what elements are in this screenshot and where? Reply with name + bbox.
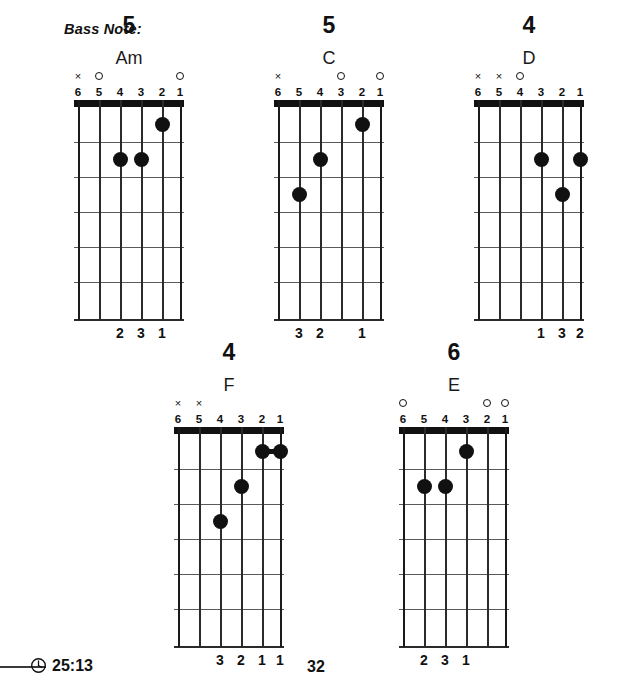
string-line	[478, 100, 480, 320]
open-string-icon-c-1	[374, 70, 386, 80]
string-line	[403, 427, 405, 647]
finger-number-label: 3	[133, 324, 149, 342]
fret-line	[274, 177, 384, 178]
string-line	[262, 427, 264, 647]
string-line	[178, 427, 180, 647]
finger-number-label: 1	[154, 324, 170, 342]
chord-diagram-am: 5Am654321231	[59, 14, 199, 344]
string-line	[278, 100, 280, 320]
string-markers-am	[74, 70, 184, 84]
string-number-label: 3	[234, 412, 248, 426]
string-number-label: 4	[513, 85, 527, 99]
string-number-label: 4	[213, 412, 227, 426]
string-line	[162, 100, 164, 320]
string-number-label: 4	[438, 412, 452, 426]
fret-line	[74, 177, 184, 178]
fretboard-d	[474, 100, 584, 320]
open-string-icon-d-4	[514, 70, 526, 80]
string-line	[341, 100, 343, 320]
string-number-label: 1	[373, 85, 387, 99]
fret-line	[174, 504, 284, 505]
string-line	[299, 100, 301, 320]
chord-diagram-c: 5C654321321	[259, 14, 399, 344]
string-number-label: 3	[134, 85, 148, 99]
finger-dot-f-s1-f1	[273, 444, 288, 459]
open-string-icon-e-1	[499, 397, 511, 407]
string-numbers-f: 654321	[174, 412, 284, 427]
string-line	[280, 427, 282, 647]
string-line	[466, 427, 468, 647]
muted-string-icon-f-5	[193, 397, 205, 409]
fret-line	[174, 539, 284, 540]
muted-string-icon-f-6	[172, 397, 184, 409]
string-line	[562, 100, 564, 320]
finger-dot-c-s2-f1	[355, 117, 370, 132]
string-line	[220, 427, 222, 647]
string-line	[120, 100, 122, 320]
fret-line	[74, 142, 184, 143]
finger-number-label: 2	[572, 324, 588, 342]
string-line	[141, 100, 143, 320]
string-markers-f	[174, 397, 284, 411]
fret-line	[174, 646, 284, 648]
finger-number-label: 3	[554, 324, 570, 342]
finger-dot-e-s3-f1	[459, 444, 474, 459]
chord-name-e: E	[384, 367, 524, 397]
string-markers-c	[274, 70, 384, 84]
string-numbers-c: 654321	[274, 85, 384, 100]
string-line	[78, 100, 80, 320]
string-number-label: 4	[313, 85, 327, 99]
string-number-label: 5	[492, 85, 506, 99]
finger-number-label: 2	[112, 324, 128, 342]
finger-dot-am-s4-f2	[113, 152, 128, 167]
fret-line	[474, 177, 584, 178]
fret-line	[174, 609, 284, 610]
nut-e	[399, 427, 509, 434]
fret-line	[474, 282, 584, 283]
open-string-icon-c-3	[335, 70, 347, 80]
string-number-label: 2	[155, 85, 169, 99]
chord-diagram-f: 4F6543213211	[159, 341, 299, 671]
fret-line	[74, 282, 184, 283]
string-number-label: 3	[334, 85, 348, 99]
string-number-label: 2	[480, 412, 494, 426]
string-line	[499, 100, 501, 320]
fretboard-c	[274, 100, 384, 320]
fret-line	[74, 319, 184, 321]
fretboard-am	[74, 100, 184, 320]
muted-string-icon-d-5	[493, 70, 505, 82]
fret-line	[274, 142, 384, 143]
fretboard-f	[174, 427, 284, 647]
nut-f	[174, 427, 284, 434]
string-numbers-d: 654321	[474, 85, 584, 100]
string-number-label: 4	[113, 85, 127, 99]
string-number-label: 6	[271, 85, 285, 99]
string-number-label: 1	[498, 412, 512, 426]
chord-bass-note-d: 4	[459, 14, 599, 40]
chord-bass-note-f: 4	[159, 341, 299, 367]
fret-line	[74, 247, 184, 248]
finger-number-label: 1	[533, 324, 549, 342]
muted-string-icon-d-6	[472, 70, 484, 82]
open-string-icon-am-5	[93, 70, 105, 80]
finger-dot-f-s4-f3	[213, 514, 228, 529]
fret-line	[399, 574, 509, 575]
finger-dot-d-s1-f2	[573, 152, 588, 167]
fret-line	[174, 469, 284, 470]
string-number-label: 2	[355, 85, 369, 99]
page-number: 32	[0, 658, 632, 676]
string-number-label: 5	[92, 85, 106, 99]
string-line	[362, 100, 364, 320]
string-line	[320, 100, 322, 320]
muted-string-icon-c-6	[272, 70, 284, 82]
string-line	[241, 427, 243, 647]
fret-line	[399, 609, 509, 610]
string-line	[99, 100, 101, 320]
chord-diagram-e: 6E654321231	[384, 341, 524, 671]
finger-dot-c-s5-f3	[292, 187, 307, 202]
string-number-label: 5	[292, 85, 306, 99]
string-number-label: 3	[534, 85, 548, 99]
string-numbers-e: 654321	[399, 412, 509, 427]
finger-number-label: 2	[312, 324, 328, 342]
string-line	[487, 427, 489, 647]
